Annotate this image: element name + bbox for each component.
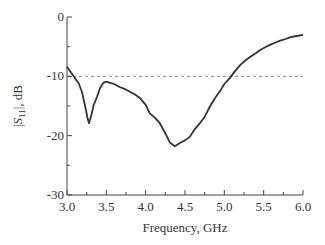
chart: 0-10-20-30 3.03.54.04.55.05.56.0 Frequen… <box>0 0 325 245</box>
x-tick-label: 6.0 <box>295 199 311 214</box>
y-tick-label: -10 <box>47 68 64 83</box>
x-axis-title: Frequency, GHz <box>142 220 227 235</box>
x-tick-label: 3.0 <box>59 199 75 214</box>
y-ticks: 0-10-20-30 <box>47 9 72 202</box>
y-tick-label: -20 <box>47 128 64 143</box>
s11-curve <box>67 35 303 147</box>
y-axis-title: |S11|, dB <box>10 85 27 127</box>
x-tick-label: 4.0 <box>138 199 154 214</box>
x-ticks: 3.03.54.04.55.05.56.0 <box>59 190 311 214</box>
x-tick-label: 5.5 <box>256 199 272 214</box>
plot-area <box>67 35 303 147</box>
x-tick-label: 5.0 <box>216 199 232 214</box>
x-tick-label: 3.5 <box>98 199 114 214</box>
y-tick-label: 0 <box>58 9 65 24</box>
x-tick-label: 4.5 <box>177 199 193 214</box>
